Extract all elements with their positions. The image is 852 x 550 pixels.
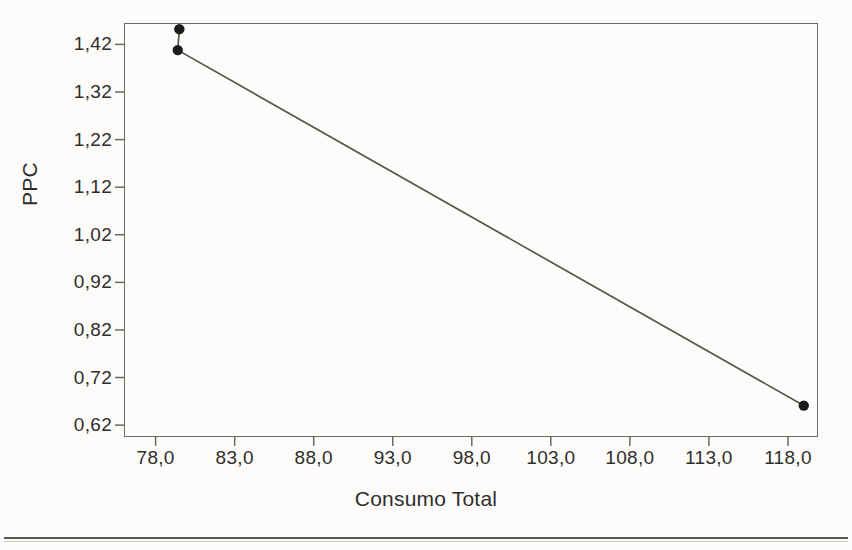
x-tick-label: 83,0: [216, 447, 254, 469]
data-point-marker: [174, 24, 184, 34]
x-tick-label: 93,0: [374, 447, 412, 469]
y-tick-label: 0,62: [74, 414, 112, 436]
scatter-line-chart: 0,620,720,820,921,021,121,221,321,42 78,…: [0, 0, 852, 550]
y-tick-label: 1,12: [74, 176, 112, 198]
x-tick-label: 113,0: [685, 447, 733, 469]
x-axis-tick-labels: 78,083,088,093,098,0103,0108,0113,0118,0: [0, 447, 852, 477]
y-tick-label: 1,22: [74, 129, 112, 151]
x-tick-label: 108,0: [605, 447, 654, 469]
series-polyline: [178, 29, 804, 405]
x-tick-label: 88,0: [295, 447, 333, 469]
y-tick-label: 1,42: [74, 33, 112, 55]
y-tick-label: 0,72: [74, 367, 112, 389]
x-tick-label: 98,0: [453, 447, 491, 469]
x-tick-label: 118,0: [764, 447, 812, 469]
data-line-series: [178, 29, 804, 405]
y-tick-label: 1,32: [74, 81, 112, 103]
x-axis-title: Consumo Total: [0, 487, 852, 511]
page-divider-rule: [4, 537, 848, 539]
data-point-marker: [173, 45, 183, 55]
x-tick-label: 103,0: [526, 447, 575, 469]
data-point-markers: [173, 24, 809, 411]
x-axis-tick-marks: [156, 437, 788, 446]
y-tick-label: 0,82: [74, 319, 112, 341]
y-tick-label: 1,02: [74, 224, 112, 246]
y-tick-label: 0,92: [74, 271, 112, 293]
y-axis-tick-marks: [115, 44, 124, 425]
y-axis-title: PPC: [18, 162, 42, 206]
page-divider-rule-shadow: [4, 541, 848, 542]
data-point-marker: [799, 400, 809, 410]
x-tick-label: 78,0: [137, 447, 175, 469]
